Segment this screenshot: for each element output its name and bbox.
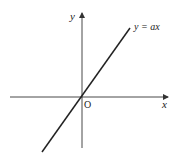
line-y-equals-ax (42, 28, 130, 152)
origin-label: O (84, 99, 91, 110)
y-axis-label: y (69, 10, 75, 22)
x-axis-label: x (161, 98, 167, 110)
line-equation-label: y = ax (133, 21, 160, 32)
graph-canvas: y y = ax O x (0, 0, 176, 162)
